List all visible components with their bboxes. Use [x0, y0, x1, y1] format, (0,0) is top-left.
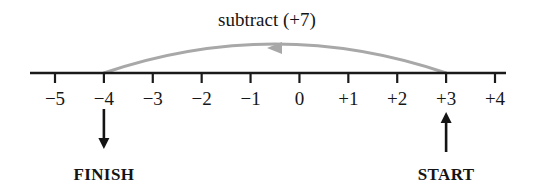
axis-tick-label: −2	[192, 88, 212, 109]
start-marker-group: START	[418, 112, 475, 184]
finish-arrow-head-icon	[98, 138, 109, 149]
axis-ticks-group	[55, 73, 495, 83]
axis-tick-label: −5	[45, 88, 65, 109]
axis-tick-label: −1	[240, 88, 260, 109]
finish-marker-group: FINISH	[73, 109, 134, 184]
number-line-canvas: −5−4−3−2−10+1+2+3+4 subtract (+7) FINISH…	[0, 0, 534, 193]
subtract-arc-group	[104, 42, 446, 73]
axis-tick-label: +3	[436, 88, 456, 109]
start-label: START	[418, 165, 475, 184]
axis-tick-labels-group: −5−4−3−2−10+1+2+3+4	[45, 88, 506, 109]
axis-tick-label: +4	[485, 88, 506, 109]
axis-tick-label: +1	[338, 88, 358, 109]
finish-label: FINISH	[73, 165, 134, 184]
axis-tick-label: −3	[143, 88, 163, 109]
axis-tick-label: 0	[295, 88, 305, 109]
operation-title: subtract (+7)	[218, 9, 316, 31]
axis-tick-label: +2	[387, 88, 407, 109]
axis-tick-label: −4	[94, 88, 115, 109]
start-arrow-head-icon	[441, 112, 452, 123]
number-line-diagram: −5−4−3−2−10+1+2+3+4 subtract (+7) FINISH…	[0, 0, 534, 193]
